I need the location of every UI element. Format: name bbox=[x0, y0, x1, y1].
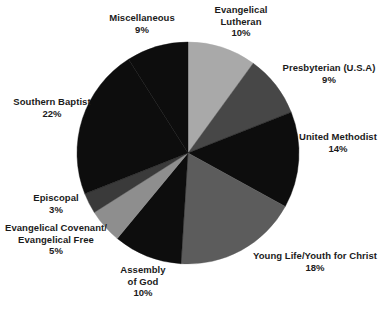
callout-label-line1: Evangelical bbox=[198, 4, 284, 16]
callout-value: 14% bbox=[294, 143, 382, 155]
callout-label-line2: Evangelical Free bbox=[0, 234, 112, 246]
callout-value: 9% bbox=[276, 74, 382, 86]
callout-episcopal: Episcopal 3% bbox=[16, 192, 96, 215]
callout-label: Miscellaneous bbox=[96, 12, 188, 24]
callout-label-line1: Evangelical Covenant/ bbox=[0, 222, 112, 234]
callout-young-life-youth-for-christ: Young Life/Youth for Christ 18% bbox=[248, 250, 382, 273]
callout-label: Young Life/Youth for Christ bbox=[248, 250, 382, 262]
callout-label-line2: of God bbox=[108, 276, 178, 288]
callout-label: Episcopal bbox=[16, 192, 96, 204]
callout-label: United Methodist bbox=[294, 131, 382, 143]
callout-value: 9% bbox=[96, 24, 188, 36]
callout-presbyterian: Presbyterian (U.S.A) 9% bbox=[276, 62, 382, 85]
pie-chart-page: Miscellaneous 9% Evangelical Lutheran 10… bbox=[0, 0, 383, 312]
callout-miscellaneous: Miscellaneous 9% bbox=[96, 12, 188, 35]
callout-united-methodist: United Methodist 14% bbox=[294, 131, 382, 154]
callout-value: 10% bbox=[198, 27, 284, 39]
callout-label-line2: Lutheran bbox=[198, 16, 284, 28]
callout-value: 3% bbox=[16, 204, 96, 216]
callout-label: Southern Baptist bbox=[4, 96, 100, 108]
callout-southern-baptist: Southern Baptist 22% bbox=[4, 96, 100, 119]
callout-evangelical-covenant-free: Evangelical Covenant/ Evangelical Free 5… bbox=[0, 222, 112, 257]
callout-value: 10% bbox=[108, 287, 178, 299]
callout-value: 18% bbox=[248, 262, 382, 274]
callout-value: 5% bbox=[0, 245, 112, 257]
callout-label-line1: Assembly bbox=[108, 264, 178, 276]
callout-evangelical-lutheran: Evangelical Lutheran 10% bbox=[198, 4, 284, 39]
callout-label: Presbyterian (U.S.A) bbox=[276, 62, 382, 74]
callout-value: 22% bbox=[4, 108, 100, 120]
callout-assembly-of-god: Assembly of God 10% bbox=[108, 264, 178, 299]
